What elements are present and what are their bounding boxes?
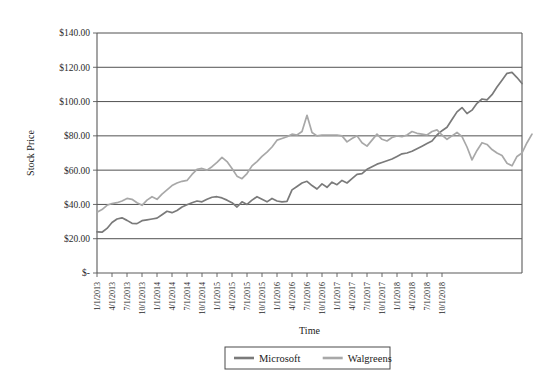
x-axis-tick-label: 10/1/2015 [258, 282, 267, 314]
y-axis-tick-label: $60.00 [64, 166, 90, 176]
x-axis-tick-label: 1/1/2014 [153, 282, 162, 310]
y-axis-tick-label: $120.00 [59, 63, 90, 73]
x-axis-tick-label: 10/1/2013 [138, 282, 147, 314]
y-axis-group: $-$20.00$40.00$60.00$80.00$100.00$120.00… [59, 28, 97, 278]
x-axis-tick-label: 4/1/2015 [228, 282, 237, 310]
x-axis-group: 1/1/20134/1/20137/1/201310/1/20131/1/201… [93, 33, 522, 314]
x-axis-tick-label: 1/1/2018 [393, 282, 402, 310]
y-axis-tick-label: $140.00 [59, 28, 90, 38]
series-group [97, 72, 532, 232]
x-axis-tick-label: 10/1/2017 [378, 282, 387, 314]
x-axis-tick-label: 10/1/2016 [318, 282, 327, 314]
gridlines-group [97, 33, 522, 239]
x-axis-tick-label: 4/1/2014 [168, 282, 177, 310]
series-line-walgreens [97, 115, 532, 212]
x-axis-tick-label: 7/1/2015 [243, 282, 252, 310]
x-axis-tick-label: 1/1/2017 [333, 282, 342, 310]
y-axis-tick-label: $20.00 [64, 234, 90, 244]
x-axis-tick-label: 4/1/2017 [348, 282, 357, 310]
x-axis-tick-label: 7/1/2013 [123, 282, 132, 310]
x-axis-tick-label: 7/1/2014 [183, 282, 192, 310]
legend-group: MicrosoftWalgreens [225, 347, 392, 369]
legend-label-walgreens: Walgreens [348, 353, 392, 364]
y-axis-tick-label: $80.00 [64, 131, 90, 141]
x-axis-tick-label: 10/1/2018 [438, 282, 447, 314]
x-axis-tick-label: 4/1/2016 [288, 282, 297, 310]
series-line-microsoft [97, 72, 522, 232]
y-axis-tick-label: $40.00 [64, 200, 90, 210]
legend-label-microsoft: Microsoft [259, 353, 300, 364]
x-axis-tick-label: 1/1/2016 [273, 282, 282, 310]
x-axis-tick-label: 4/1/2013 [108, 282, 117, 310]
x-axis-tick-label: 7/1/2018 [423, 282, 432, 310]
x-axis-title: Time [299, 325, 320, 336]
y-axis-tick-label: $100.00 [59, 97, 90, 107]
x-axis-tick-label: 7/1/2016 [303, 282, 312, 310]
stock-price-line-chart: $-$20.00$40.00$60.00$80.00$100.00$120.00… [0, 0, 555, 391]
x-axis-tick-label: 7/1/2017 [363, 282, 372, 310]
chart-canvas: $-$20.00$40.00$60.00$80.00$100.00$120.00… [0, 0, 555, 391]
x-axis-tick-label: 10/1/2014 [198, 282, 207, 314]
y-axis-tick-label: $- [82, 268, 90, 278]
x-axis-tick-label: 4/1/2018 [408, 282, 417, 310]
x-axis-tick-label: 1/1/2015 [213, 282, 222, 310]
x-axis-tick-label: 1/1/2013 [93, 282, 102, 310]
y-axis-title: Stock Price [25, 130, 36, 176]
